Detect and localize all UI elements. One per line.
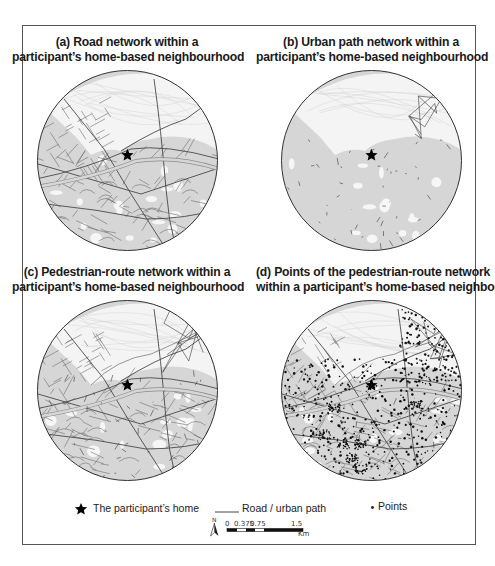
panel-b-urban-path-map — [280, 69, 463, 252]
panel-b-title-line2: participant’s home-based neighbourhood — [256, 50, 486, 65]
panel-c-title-line1: (c) Pedestrian-route network within a — [12, 265, 242, 280]
legend-road-label: Road / urban path — [242, 502, 326, 514]
panel-b-title-line1: (b) Urban path network within a — [256, 35, 486, 50]
road-line-icon — [215, 510, 239, 514]
legend-home-label: The participant’s home — [93, 502, 199, 514]
panel-a-title: (a) Road network within a participant’s … — [12, 35, 242, 65]
panel-a-road-network-map — [36, 69, 219, 252]
panel-d-title-line1: (d) Points of the pedestrian-route netwo… — [256, 265, 486, 280]
north-label: N — [212, 516, 217, 523]
scale-tick-075: 0.75 — [250, 520, 266, 528]
legend-points-label: Points — [378, 500, 407, 512]
panel-c-title-line2: participant’s home-based neighbourhood — [12, 280, 242, 295]
panel-a-title-line1: (a) Road network within a — [12, 35, 242, 50]
panel-d-title: (d) Points of the pedestrian-route netwo… — [256, 265, 486, 295]
panel-c-pedestrian-route-map — [36, 299, 219, 482]
scale-tick-15: 1.5 — [291, 520, 302, 528]
scale-bar — [227, 528, 303, 533]
scale-tick-0: 0 — [225, 520, 229, 528]
panel-a-title-line2: participant’s home-based neighbourhood — [12, 50, 242, 65]
panel-b-title: (b) Urban path network within a particip… — [256, 35, 486, 65]
panel-c-title: (c) Pedestrian-route network within a pa… — [12, 265, 242, 295]
panel-d-title-line2: within a participant’s home-based neighb… — [256, 280, 486, 295]
home-star-icon — [74, 502, 88, 516]
panel-d-network-points-map — [280, 299, 463, 482]
scale-unit: Km — [298, 530, 309, 538]
north-arrow-icon — [210, 523, 219, 536]
point-dot-icon — [370, 505, 375, 510]
